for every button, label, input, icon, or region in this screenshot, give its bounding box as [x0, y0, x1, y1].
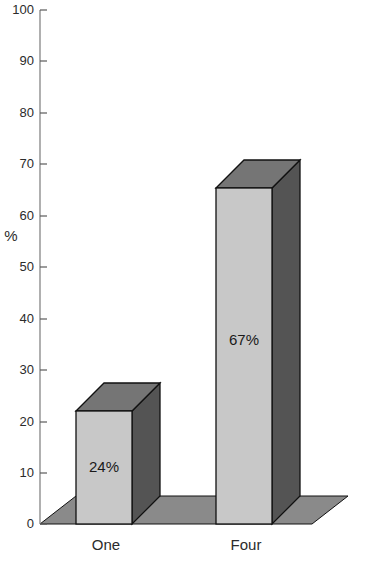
- y-axis: 100 90 80 70 60 50 40 30 20 10 0 %: [4, 2, 47, 531]
- y-axis-title: %: [4, 227, 17, 244]
- y-tick-label-70: 70: [20, 156, 34, 171]
- x-axis-labels: One Four: [92, 536, 262, 553]
- y-tick-label-90: 90: [20, 53, 34, 68]
- y-tick-label-20: 20: [20, 414, 34, 429]
- y-tick-label-30: 30: [20, 362, 34, 377]
- bar-four-side-face: [272, 160, 300, 524]
- bar-chart-3d: 100 90 80 70 60 50 40 30 20 10 0 % 24%: [0, 0, 380, 581]
- bar-four-front-face: [216, 188, 272, 524]
- chart-container: 100 90 80 70 60 50 40 30 20 10 0 % 24%: [0, 0, 380, 581]
- bar-one-value-label: 24%: [89, 458, 119, 475]
- y-tick-label-100: 100: [12, 2, 34, 17]
- y-tick-label-50: 50: [20, 259, 34, 274]
- y-tick-label-10: 10: [20, 465, 34, 480]
- bar-four[interactable]: 67%: [216, 160, 300, 524]
- bar-four-value-label: 67%: [229, 331, 259, 348]
- y-tick-label-80: 80: [20, 105, 34, 120]
- y-tick-label-0: 0: [27, 516, 34, 531]
- x-tick-label-four: Four: [231, 536, 262, 553]
- x-tick-label-one: One: [92, 536, 120, 553]
- bar-one[interactable]: 24%: [76, 383, 160, 524]
- y-tick-label-60: 60: [20, 208, 34, 223]
- y-tick-label-40: 40: [20, 311, 34, 326]
